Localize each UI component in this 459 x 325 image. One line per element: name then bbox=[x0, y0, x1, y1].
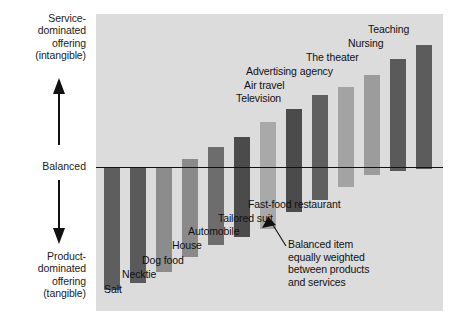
bar-upper-12 bbox=[416, 45, 432, 167]
bars-layer bbox=[96, 14, 443, 311]
balanced-baseline bbox=[96, 167, 443, 168]
bar-lower-9 bbox=[338, 167, 354, 187]
axis-top-label: Service-dominatedoffering(intangible) bbox=[0, 12, 86, 62]
bar-upper-6 bbox=[260, 122, 276, 167]
bar-label-9: Advertising agency bbox=[246, 65, 333, 77]
axis-bottom-line-0: Product- bbox=[0, 250, 86, 262]
annotation-line-3: and services bbox=[288, 276, 369, 289]
bar-label-1: Necktie bbox=[122, 268, 156, 280]
bar-upper-10 bbox=[364, 75, 380, 167]
bar-label-0: Salt bbox=[104, 283, 122, 295]
annotation-line-1: equally weighted bbox=[288, 251, 369, 264]
axis-top-line-1: dominated bbox=[0, 24, 86, 36]
axis-top-line-3: (intangible) bbox=[0, 49, 86, 61]
axis-bottom-label: Product-dominatedoffering(tangible) bbox=[0, 250, 86, 300]
annotation-line-2: between products bbox=[288, 263, 369, 276]
axis-bottom-line-1: dominated bbox=[0, 262, 86, 274]
bar-upper-3 bbox=[182, 159, 198, 167]
bar-label-11: Nursing bbox=[348, 37, 383, 49]
bar-upper-4 bbox=[208, 147, 224, 167]
axis-bottom-line-2: offering bbox=[0, 275, 86, 287]
balanced-item-annotation: Balanced itemequally weightedbetween pro… bbox=[288, 238, 369, 288]
bar-upper-7 bbox=[286, 109, 302, 167]
bar-label-8: Air travel bbox=[244, 79, 284, 91]
bar-lower-0 bbox=[104, 167, 120, 290]
bar-label-3: House bbox=[172, 239, 202, 251]
bar-label-7: Television bbox=[236, 92, 281, 104]
bar-label-10: The theater bbox=[306, 51, 359, 63]
axis-top-line-0: Service- bbox=[0, 12, 86, 24]
axis-top-line-2: offering bbox=[0, 37, 86, 49]
bar-upper-5 bbox=[234, 137, 250, 167]
bar-upper-9 bbox=[338, 87, 354, 167]
bar-label-6: Fast-food restaurant bbox=[248, 198, 341, 210]
bar-label-4: Automobile bbox=[188, 225, 240, 237]
axis-bottom-line-3: (tangible) bbox=[0, 287, 86, 299]
bar-upper-8 bbox=[312, 95, 328, 167]
bar-lower-10 bbox=[364, 167, 380, 175]
bar-label-12: Teaching bbox=[368, 23, 409, 35]
bar-lower-8 bbox=[312, 167, 328, 200]
axis-center-label: Balanced bbox=[0, 160, 86, 172]
bar-upper-11 bbox=[390, 59, 406, 167]
goods-services-continuum-chart: Balanced itemequally weightedbetween pro… bbox=[0, 0, 459, 325]
annotation-line-0: Balanced item bbox=[288, 238, 369, 251]
bar-label-2: Dog food bbox=[142, 254, 184, 266]
value-axis: Service-dominatedoffering(intangible) Ba… bbox=[0, 0, 92, 325]
bar-label-5: Tailored suit bbox=[218, 212, 273, 224]
